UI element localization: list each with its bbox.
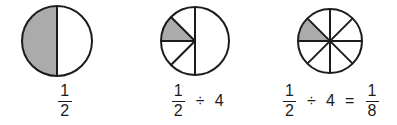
- figure-result-one-eighth: 1 2 ÷ 4 = 1 8: [265, 0, 397, 125]
- pie-eighths-svg: [296, 7, 364, 75]
- equation: 1 2: [57, 84, 72, 121]
- figure-one-half: 1 2: [0, 0, 130, 125]
- fraction-one-half: 1 2: [171, 83, 186, 120]
- fraction-one-half: 1 2: [57, 83, 72, 120]
- division-operator: ÷: [302, 93, 321, 109]
- pie-half-svg: [21, 4, 93, 78]
- fraction-one-eighth: 1 8: [365, 83, 380, 120]
- division-operator: ÷: [191, 93, 210, 109]
- result-numerator: 1: [365, 83, 380, 101]
- caption-one-half: 1 2: [0, 84, 130, 121]
- sector-shaded: [22, 6, 57, 76]
- fraction-numerator: 1: [57, 83, 72, 101]
- equals-operator: =: [340, 93, 360, 109]
- figure-one-half-divided-by-four: 1 2 ÷ 4: [130, 0, 265, 125]
- caption-one-half-divided-by-four: 1 2 ÷ 4: [130, 84, 265, 121]
- pie-chart-eighths: [296, 7, 364, 79]
- equation: 1 2 ÷ 4 = 1 8: [282, 84, 380, 121]
- result-denominator: 8: [365, 102, 380, 120]
- fraction-denominator: 2: [282, 102, 297, 120]
- caption-result-equation: 1 2 ÷ 4 = 1 8: [265, 84, 397, 121]
- sector-unshaded: [57, 6, 92, 76]
- fraction-denominator: 2: [171, 102, 186, 120]
- divisor-value: 4: [215, 93, 224, 109]
- pie-chart-half-split-in-four: [159, 5, 231, 81]
- fraction-division-illustration: 1 2: [0, 0, 397, 125]
- fraction-numerator: 1: [282, 83, 297, 101]
- fraction-numerator: 1: [171, 83, 186, 101]
- pie-chart-one-half: [21, 4, 93, 82]
- pie-half-quartered-svg: [159, 5, 231, 77]
- equation: 1 2 ÷ 4: [171, 84, 224, 121]
- fraction-one-half: 1 2: [282, 83, 297, 120]
- fraction-denominator: 2: [57, 102, 72, 120]
- divisor-value: 4: [326, 93, 335, 109]
